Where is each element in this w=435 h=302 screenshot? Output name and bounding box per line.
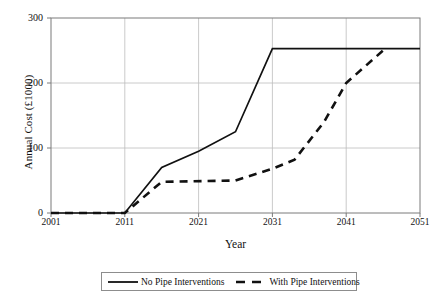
chart-container: Annual Cost (£1000) 0 100 200 300 2001 2… [0, 0, 435, 302]
series-line-1 [51, 49, 420, 213]
legend-swatch-solid [108, 277, 138, 287]
y-axis-tick-label: 100 [9, 143, 43, 153]
x-axis-tick-label: 2011 [100, 217, 150, 227]
legend-swatch-dashed [236, 277, 266, 287]
y-axis-tick-label: 200 [9, 78, 43, 88]
plot-frame [51, 18, 420, 213]
x-axis-tick-label: 2001 [26, 217, 76, 227]
y-axis-tick-label: 300 [9, 13, 43, 23]
legend-label-with-pipe-interventions: With Pipe Interventions [266, 277, 365, 287]
x-axis-tick-label: 2031 [247, 217, 297, 227]
series-line-2 [51, 51, 383, 214]
y-axis-title: Annual Cost (£1000) [22, 37, 34, 207]
x-axis-tick-label: 2021 [174, 217, 224, 227]
data-series-layer [51, 49, 420, 213]
plot-area [0, 0, 435, 302]
gridlines [51, 18, 420, 213]
chart-legend: No Pipe Interventions With Pipe Interven… [101, 272, 357, 291]
x-axis-tick-label: 2041 [321, 217, 371, 227]
legend-label-no-pipe-interventions: No Pipe Interventions [138, 277, 230, 287]
x-axis-tick-label: 2051 [395, 217, 435, 227]
x-axis-title: Year [51, 238, 420, 250]
